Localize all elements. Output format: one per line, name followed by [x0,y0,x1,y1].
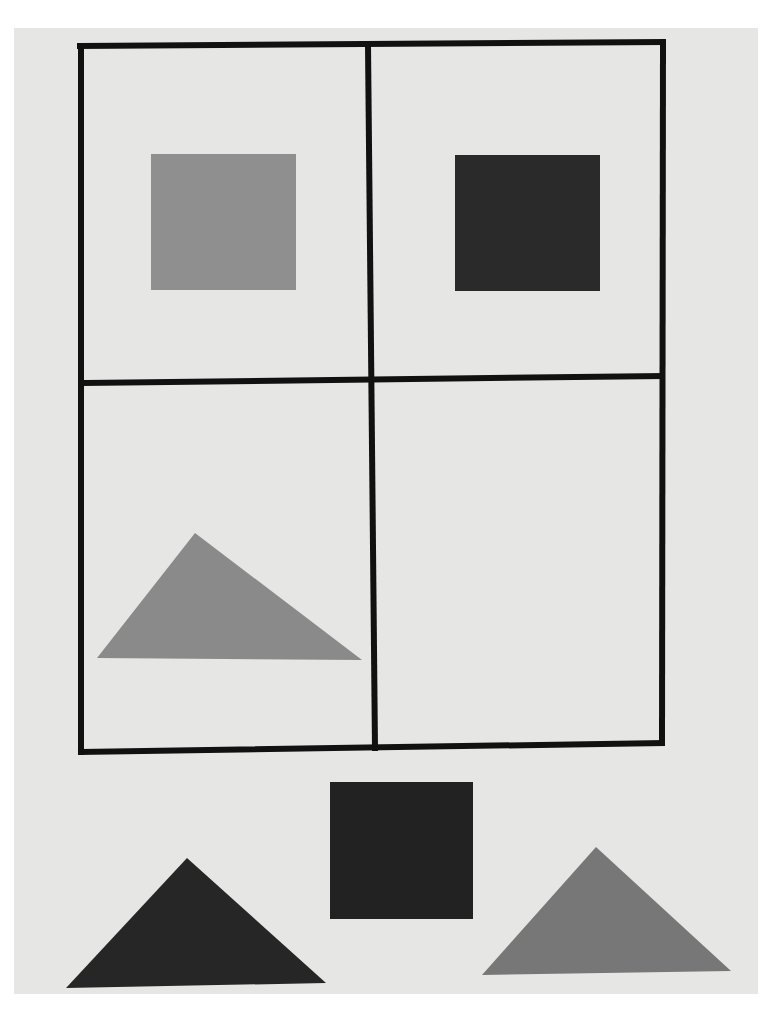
puzzle-figure [0,0,764,1009]
grid-vertical-divider [368,45,375,748]
choice-right-medium-triangle[interactable] [482,847,731,975]
choice-left-dark-triangle[interactable] [66,858,326,988]
matrix-cell-bottom-right-empty [380,382,658,742]
grid-bottom-border [81,743,662,752]
choice-center-dark-square[interactable] [330,782,473,919]
matrix-cell-bottom-left-light-triangle [97,533,362,660]
grid-horizontal-divider [85,376,662,383]
grid-right-border [662,42,663,743]
grid-top-border [80,42,663,46]
matrix-cell-top-left-light-square [151,154,296,290]
matrix-cell-top-right-dark-square [455,155,600,291]
